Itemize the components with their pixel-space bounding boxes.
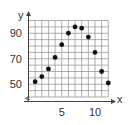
data-point bbox=[93, 50, 98, 55]
data-point bbox=[79, 26, 84, 31]
x-tick-label: 10 bbox=[89, 106, 101, 118]
data-point bbox=[106, 81, 111, 86]
x-tick-label: 5 bbox=[59, 106, 65, 118]
data-point bbox=[33, 79, 38, 84]
scatter-chart: 510507090 x y bbox=[0, 0, 128, 125]
y-axis-arrow-icon bbox=[26, 11, 31, 16]
data-point bbox=[73, 24, 78, 29]
data-point bbox=[39, 74, 44, 79]
y-tick-label: 90 bbox=[10, 27, 22, 39]
data-point bbox=[59, 42, 64, 47]
data-point bbox=[66, 31, 71, 36]
axes bbox=[24, 11, 116, 104]
data-point bbox=[86, 35, 91, 40]
x-axis-label: x bbox=[117, 93, 123, 105]
data-point bbox=[53, 55, 58, 60]
y-axis-label: y bbox=[18, 9, 24, 21]
y-tick-label: 70 bbox=[10, 53, 22, 65]
x-axis-arrow-icon bbox=[111, 99, 116, 104]
data-point bbox=[99, 69, 104, 74]
y-tick-label: 50 bbox=[10, 78, 22, 90]
data-point bbox=[46, 67, 51, 72]
